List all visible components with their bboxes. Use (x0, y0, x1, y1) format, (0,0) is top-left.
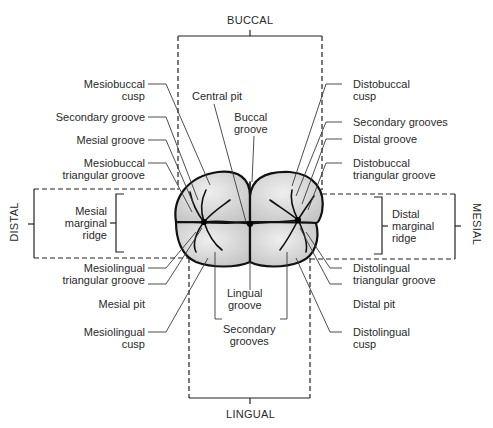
buccal-bracket (178, 30, 322, 190)
central-pit-dot (247, 221, 253, 227)
distobuccal-cusp-shape (250, 172, 323, 223)
label-mesial-groove: Mesial groove (77, 134, 145, 146)
distal-pit-dot (295, 217, 301, 223)
label-distobuccal-triangular-groove: Distobuccal triangular groove (353, 157, 436, 181)
mesial-pit-dot (201, 219, 207, 225)
label-buccal-groove: Buccal groove (234, 111, 268, 135)
label-mesiolingual-triangular-groove: Mesiolingual triangular groove (62, 262, 145, 286)
label-mesiobuccal-cusp: Mesiobuccal cusp (84, 78, 145, 102)
direction-distal: DISTAL (8, 202, 20, 242)
mesial-marginal-ridge-bracket (110, 194, 124, 252)
label-mesiolingual-cusp: Mesiolingual cusp (84, 326, 145, 350)
direction-buccal: BUCCAL (227, 14, 273, 26)
direction-mesial: MESIAL (471, 203, 483, 245)
label-secondary-grooves-right: Secondary grooves (353, 116, 448, 128)
label-mesial-marginal-ridge: Mesial marginal ridge (65, 205, 107, 241)
label-distal-marginal-ridge: Distal marginal ridge (392, 208, 434, 244)
label-distal-groove: Distal groove (353, 133, 417, 145)
label-lingual-groove: Lingual groove (227, 287, 262, 311)
label-mesiobuccal-triangular-groove: Mesiobuccal triangular groove (62, 157, 145, 181)
mesiolingual-cusp-shape (176, 222, 250, 267)
distal-marginal-ridge-bracket (374, 197, 388, 254)
label-distal-pit: Distal pit (353, 298, 395, 310)
label-distobuccal-cusp: Distobuccal cusp (353, 78, 410, 102)
label-mesial-pit: Mesial pit (99, 298, 145, 310)
label-secondary-grooves-bottom: Secondary grooves (223, 323, 276, 347)
distal-bracket (28, 189, 190, 258)
label-secondary-groove: Secondary groove (56, 111, 145, 123)
direction-lingual: LINGUAL (226, 408, 275, 420)
mesiobuccal-cusp-shape (175, 172, 250, 223)
label-distolingual-cusp: Distolingual cusp (353, 326, 410, 350)
label-distolingual-triangular-groove: Distolingual triangular groove (353, 262, 436, 286)
label-central-pit: Central pit (192, 90, 242, 102)
